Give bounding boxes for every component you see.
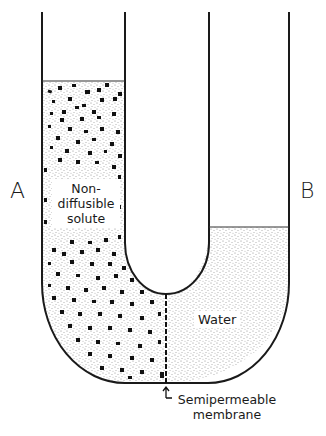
label-a: A — [10, 178, 25, 203]
water-label: Water — [194, 311, 240, 328]
membrane-pointer-arrow — [163, 387, 172, 398]
right-water — [166, 227, 289, 383]
solute-label: Non- diffusible solute — [52, 179, 120, 228]
membrane-label: Semipermeable membrane — [172, 392, 282, 422]
membrane-label-line1: Semipermeable — [172, 392, 282, 407]
solute-label-line1: Non- — [55, 181, 117, 196]
left-solution — [42, 81, 166, 383]
solute-label-line3: solute — [55, 211, 117, 226]
u-tube-diagram — [0, 0, 326, 436]
label-b: B — [300, 178, 314, 203]
solute-label-line2: diffusible — [55, 196, 117, 211]
membrane-label-line2: membrane — [172, 407, 282, 422]
